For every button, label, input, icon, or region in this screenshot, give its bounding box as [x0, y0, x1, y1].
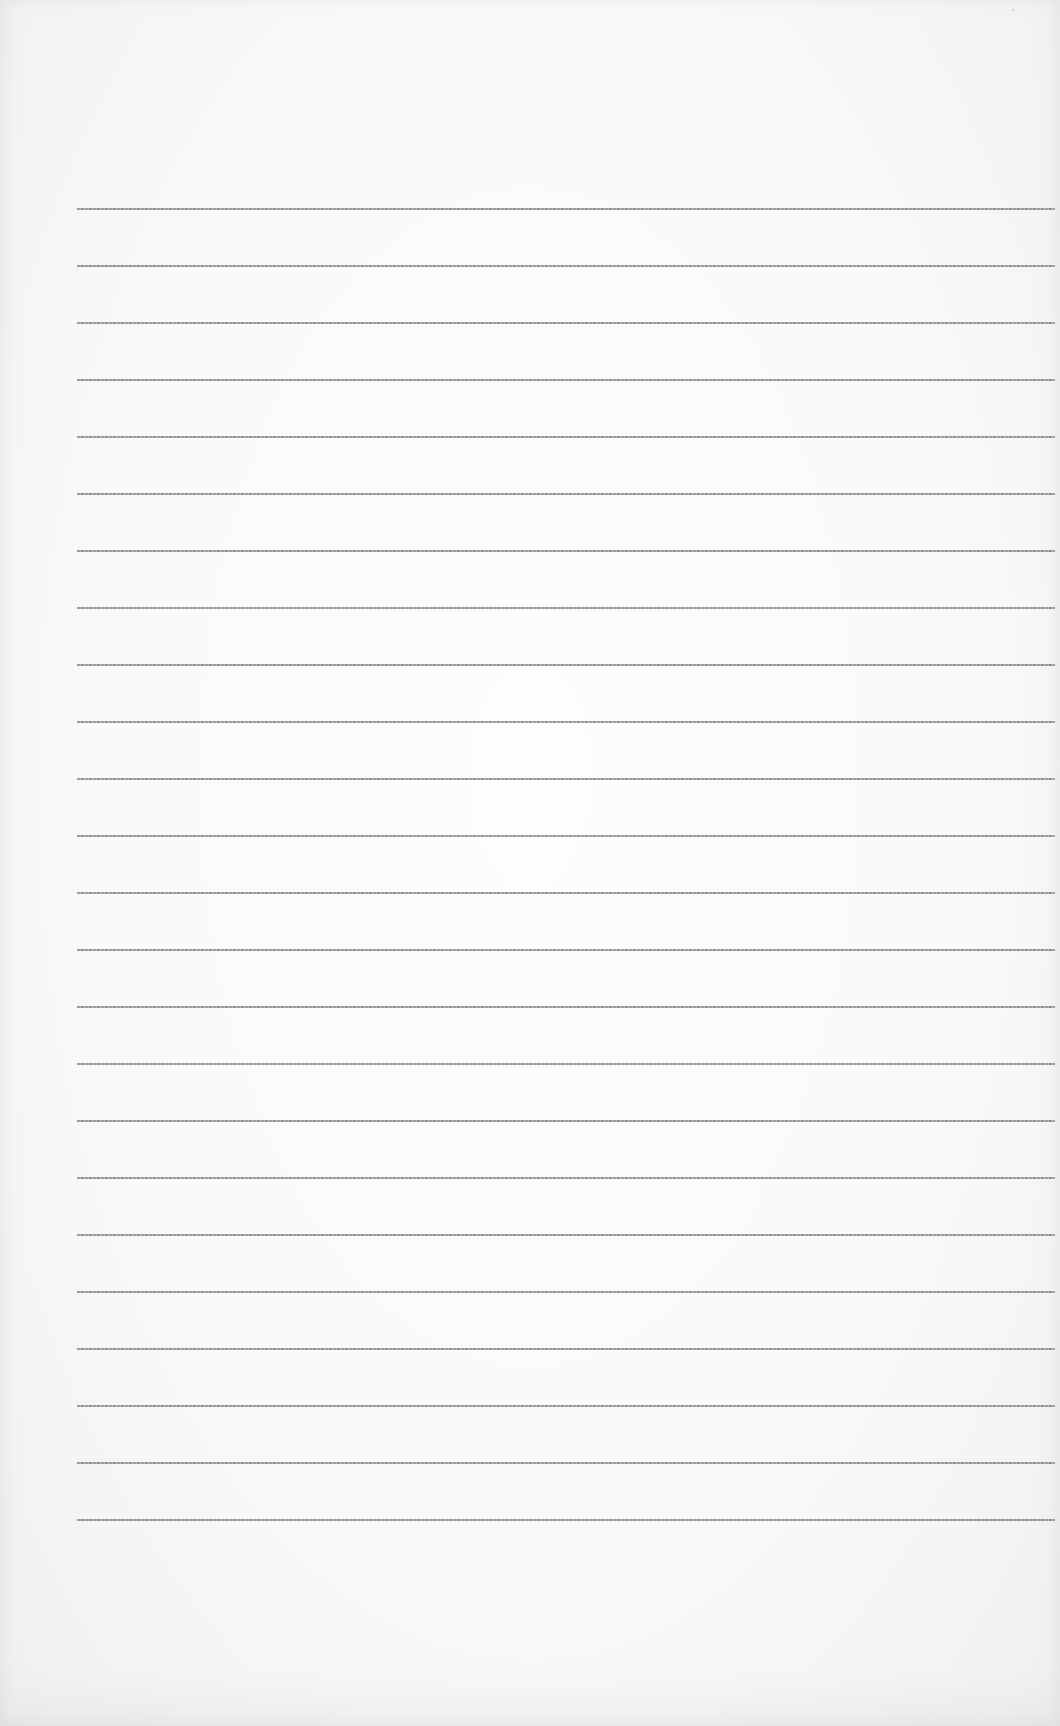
ruled-line — [77, 1120, 1055, 1122]
ruled-line — [77, 379, 1055, 381]
ruled-line — [77, 1291, 1055, 1293]
ruled-line — [77, 721, 1055, 723]
ruled-line — [77, 607, 1055, 609]
ruled-line — [77, 208, 1055, 210]
ruled-line — [77, 1177, 1055, 1179]
ruled-line — [77, 1405, 1055, 1407]
ruled-line — [77, 1519, 1055, 1521]
ruled-line — [77, 493, 1055, 495]
ruled-line — [77, 949, 1055, 951]
ruled-line — [77, 664, 1055, 666]
ruled-line — [77, 550, 1055, 552]
ruled-line — [77, 835, 1055, 837]
ruled-line — [77, 1234, 1055, 1236]
ruled-line — [77, 1348, 1055, 1350]
ruled-line — [77, 1006, 1055, 1008]
lined-paper-page — [0, 0, 1060, 1726]
ruled-line — [77, 322, 1055, 324]
ruled-line — [77, 778, 1055, 780]
ruled-line — [77, 892, 1055, 894]
page-edge-shading — [0, 0, 1060, 1726]
paper-speck — [1012, 9, 1014, 11]
ruled-line — [77, 436, 1055, 438]
ruled-line — [77, 265, 1055, 267]
ruled-line — [77, 1462, 1055, 1464]
ruled-line — [77, 1063, 1055, 1065]
